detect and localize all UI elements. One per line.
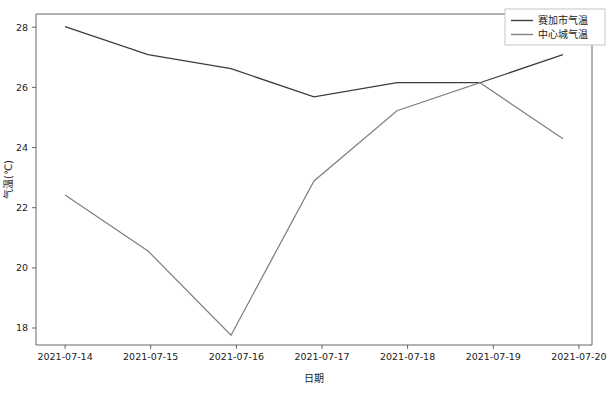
x-tick-label-4: 2021-07-18 [380,351,435,362]
y-tick-label-18: 18 [16,322,28,333]
x-tick-label-3: 2021-07-17 [294,351,349,362]
y-axis-title: 气温(℃) [2,160,14,199]
legend-label-saijia: 赛加市气温 [538,14,588,26]
y-tick-label-22: 22 [16,202,28,213]
y-tick-label-24: 24 [16,142,28,153]
x-tick-label-1: 2021-07-15 [123,351,178,362]
x-tickmarks [65,345,579,349]
plot-area-background [36,14,592,345]
y-tick-label-26: 26 [16,82,28,93]
x-tick-label-0: 2021-07-14 [37,351,92,362]
legend-label-city-center: 中心城气温 [538,28,588,40]
chart-figure: 18 20 22 24 26 28 2021-07-14 2021-07-15 … [0,0,612,393]
chart-legend: 赛加市气温 中心城气温 [505,9,605,45]
y-tickmarks [32,27,36,328]
x-tick-label-6: 2021-07-20 [551,351,606,362]
x-tick-label-5: 2021-07-19 [466,351,521,362]
x-tick-label-2: 2021-07-16 [209,351,264,362]
y-tick-label-28: 28 [16,22,28,33]
x-axis-title: 日期 [304,373,324,384]
y-tick-label-20: 20 [16,262,28,273]
line-chart-canvas: 18 20 22 24 26 28 2021-07-14 2021-07-15 … [0,0,612,393]
